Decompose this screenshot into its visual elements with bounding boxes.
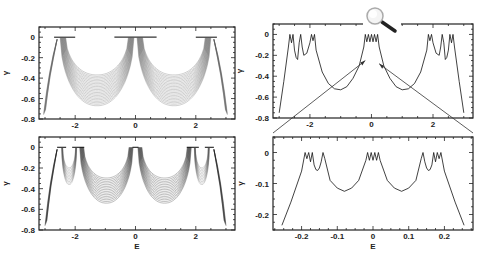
plot-frame xyxy=(39,137,235,230)
y-tick-label: -0.4 xyxy=(255,72,269,81)
y-tick-label: -0.2 xyxy=(255,51,269,60)
x-axis-label: E xyxy=(134,242,140,251)
edge-curve xyxy=(45,39,57,110)
x-axis-label: E xyxy=(370,242,376,251)
x-tick-label: 0 xyxy=(369,120,374,129)
band-curve xyxy=(65,37,130,81)
edge-curve xyxy=(47,149,57,220)
y-tick-label: 0 xyxy=(265,30,270,39)
x-tick-label: -2 xyxy=(72,232,80,241)
band-curve xyxy=(141,147,189,186)
panel-top-left: -2020-0.2-0.4-0.6-0.8γ xyxy=(1,27,235,130)
y-tick-label: -0.6 xyxy=(255,93,269,102)
band-curve xyxy=(80,147,133,201)
band-curve xyxy=(142,37,207,81)
y-axis-label: γ xyxy=(236,181,245,186)
y-tick-label: -0.4 xyxy=(21,74,35,83)
edge-curve xyxy=(214,39,226,110)
magnifier-icon xyxy=(363,8,401,32)
y-axis-label: γ xyxy=(1,70,10,75)
x-tick-label: 0 xyxy=(133,232,138,241)
x-tick-label: 2 xyxy=(194,232,199,241)
band-curve xyxy=(138,147,191,201)
band-curve xyxy=(82,147,130,186)
x-tick-label: 2 xyxy=(194,121,199,130)
x-tick-label: 0.1 xyxy=(403,232,415,241)
x-tick-label: -2 xyxy=(306,120,314,129)
zoom-annotation xyxy=(273,8,473,133)
y-tick-label: -0.1 xyxy=(255,180,269,189)
x-tick-label: 0.2 xyxy=(439,232,451,241)
panel-top-right: -2020-0.2-0.4-0.6-0.8γ xyxy=(235,24,473,129)
y-tick-label: -0.4 xyxy=(21,185,35,194)
magnifier-glint xyxy=(369,10,377,18)
y-tick-label: -0.2 xyxy=(21,164,35,173)
y-tick-label: -0.8 xyxy=(21,226,35,235)
edge-curve xyxy=(46,39,58,110)
y-tick-label: -0.2 xyxy=(255,211,269,220)
panel-bottom-left: -2020-0.2-0.4-0.6-0.8γE xyxy=(1,137,235,251)
zoom-arrow-left xyxy=(273,61,365,133)
x-tick-label: -2 xyxy=(72,121,80,130)
edge-curve xyxy=(47,149,58,221)
y-tick-label: 0 xyxy=(265,149,270,158)
figure: -2020-0.2-0.4-0.6-0.8γ -2020-0.2-0.4-0.6… xyxy=(0,0,488,260)
panel-bottom-right: -0.2-0.100.10.20-0.1-0.2γE xyxy=(236,137,473,251)
x-tick-label: 0 xyxy=(371,232,376,241)
band-curve xyxy=(64,37,130,82)
x-tick-label: 2 xyxy=(431,120,436,129)
edge-curve xyxy=(214,149,224,220)
band-curve xyxy=(141,37,207,82)
zoom-arrow-right xyxy=(379,64,473,133)
edge-curve xyxy=(214,39,226,110)
plot-frame xyxy=(273,137,473,230)
x-tick-label: 0 xyxy=(133,121,138,130)
y-axis-label: γ xyxy=(1,181,10,186)
x-tick-label: -0.2 xyxy=(295,232,309,241)
y-axis-label: γ xyxy=(235,68,244,73)
band-curve xyxy=(142,37,206,79)
arrowhead xyxy=(360,61,365,66)
y-tick-label: 0 xyxy=(31,33,36,42)
y-tick-label: -0.8 xyxy=(255,114,269,123)
x-tick-label: -0.1 xyxy=(330,232,344,241)
y-tick-label: -0.6 xyxy=(21,95,35,104)
y-tick-label: 0 xyxy=(31,143,36,152)
series-line xyxy=(279,34,464,112)
y-tick-label: -0.6 xyxy=(21,205,35,214)
series-line xyxy=(282,153,464,226)
y-tick-label: -0.2 xyxy=(21,54,35,63)
y-tick-label: -0.8 xyxy=(21,115,35,124)
